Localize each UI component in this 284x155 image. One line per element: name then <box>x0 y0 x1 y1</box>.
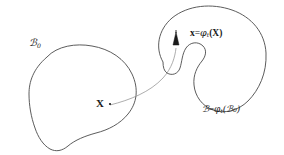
current-body-outline <box>159 6 266 112</box>
current-body-argument: (ℬ₀) <box>223 104 241 114</box>
reference-body-symbol: ℬ <box>29 37 37 48</box>
reference-body-label: ℬ0 <box>29 38 41 49</box>
reference-body-outline <box>29 45 136 151</box>
reference-point-label: X <box>96 98 104 109</box>
current-body-label: ℬ=φt(ℬ₀) <box>202 105 240 115</box>
map-argument: (X) <box>209 28 222 38</box>
figure-canvas <box>0 0 284 155</box>
current-body-symbol: ℬ <box>202 104 209 114</box>
deformation-figure: ℬ0 X x=φt(X) ℬ=φt(ℬ₀) <box>0 0 284 155</box>
current-point-map-label: x=φt(X) <box>190 28 222 39</box>
reference-point-marker <box>109 103 111 105</box>
deformation-trajectory-curve <box>110 48 176 105</box>
deformation-map-phi-symbol: φ <box>200 27 207 38</box>
reference-body-subscript: 0 <box>37 42 41 49</box>
current-point-arrow-icon <box>173 32 179 45</box>
